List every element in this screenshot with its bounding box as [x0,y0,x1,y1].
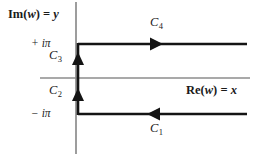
arrowhead-c2-upward [72,88,84,101]
imaginary-axis-label-variable: w [27,7,35,21]
contour-label-c2-base: C [49,83,57,97]
imaginary-axis-label: Im(w) = y [8,8,59,21]
contour-label-c4: C4 [150,16,163,29]
arrowhead-c4-rightward [150,38,163,51]
real-axis-label: Re(w) = x [186,84,237,97]
contour-diagram-figure: Im(w) = y Re(w) = x + iπ − iπ C4 C3 C2 C… [0,0,263,156]
real-axis-label-prefix: Re( [186,83,205,97]
real-axis-label-variable: w [205,83,213,97]
contour-label-c1-base: C [150,121,158,135]
real-axis-label-middle: ) = [213,83,231,97]
contour-label-c4-subscript: 4 [159,21,163,31]
imaginary-axis-label-middle: ) = [36,7,54,21]
real-axis-label-value: x [231,83,237,97]
contour-label-c1-subscript: 1 [159,127,163,137]
diagram-canvas [0,0,263,156]
contour-label-c4-base: C [150,15,158,29]
contour-label-c1: C1 [150,122,163,135]
imaginary-axis-label-value: y [53,7,59,21]
tick-label-negative-i-pi: − iπ [31,108,51,120]
contour-label-c3-subscript: 3 [58,54,62,64]
imaginary-axis-label-prefix: Im( [8,7,27,21]
arrowhead-c1-leftward [147,108,160,121]
contour-label-c3-base: C [49,48,57,62]
tick-label-positive-i-pi: + iπ [31,38,51,50]
arrowhead-c3-upward [72,52,84,65]
contour-label-c2-subscript: 2 [58,89,62,99]
contour-label-c2: C2 [49,84,62,97]
contour-label-c3: C3 [49,49,62,62]
